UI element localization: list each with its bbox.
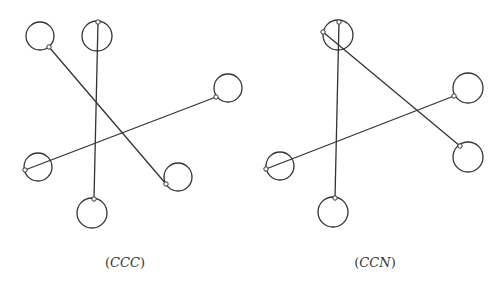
ring-node: [318, 197, 348, 227]
endpoint-marker: [96, 20, 100, 24]
caption-ccn-text: CCN: [359, 255, 390, 270]
bond-line: [266, 96, 454, 169]
caption-close-paren: ): [140, 255, 145, 270]
bond-line: [323, 32, 460, 146]
endpoint-marker: [321, 30, 325, 34]
endpoint-marker: [214, 95, 218, 99]
endpoint-marker: [23, 168, 27, 172]
endpoint-marker: [458, 144, 462, 148]
bond-line: [25, 97, 216, 170]
caption-ccc: (CCC): [105, 255, 145, 270]
endpoint-marker: [164, 182, 168, 186]
endpoint-marker: [337, 20, 341, 24]
endpoint-marker: [452, 94, 456, 98]
endpoint-marker: [92, 197, 96, 201]
panel-ccn: [264, 20, 483, 227]
endpoint-marker: [333, 196, 337, 200]
caption-ccc-text: CCC: [110, 255, 140, 270]
caption-ccn: (CCN): [354, 255, 395, 270]
ring-node: [164, 163, 192, 191]
caption-close-paren: ): [391, 255, 396, 270]
ring-node: [24, 153, 52, 181]
ring-node: [266, 152, 294, 180]
bond-line: [49, 47, 166, 184]
ring-node: [77, 198, 107, 228]
diagram-canvas: [0, 0, 500, 287]
bond-line: [94, 22, 98, 199]
endpoint-marker: [47, 45, 51, 49]
bond-line: [335, 22, 339, 198]
panel-ccc: [23, 20, 242, 228]
endpoint-marker: [264, 167, 268, 171]
ring-node: [453, 73, 483, 103]
